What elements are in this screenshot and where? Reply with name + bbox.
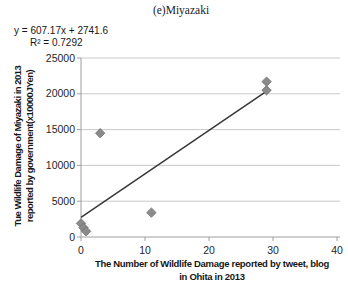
y-tick-label: 5000 <box>52 195 76 207</box>
x-axis-title-line1: The Number of Wildlife Damage reported b… <box>95 258 329 271</box>
y-tick-label: 15000 <box>46 123 75 135</box>
x-tick-label: 10 <box>139 244 151 256</box>
x-tick-label: 30 <box>267 244 279 256</box>
data-point-marker <box>147 208 156 217</box>
x-axis-title-line2: in Ohita in 2013 <box>95 271 329 284</box>
y-tick-label: 20000 <box>46 87 75 99</box>
trendline <box>81 92 266 218</box>
figure-panel-miyazaki: (e)Miyazaki y = 607.17x + 2741.6 R² = 0.… <box>0 0 348 284</box>
x-axis-title: The Number of Wildlife Damage reported b… <box>95 258 329 283</box>
x-tick-label: 40 <box>331 244 343 256</box>
y-tick-label: 25000 <box>46 52 75 64</box>
scatter-plot: 0500010000150002000025000010203040 <box>0 0 348 284</box>
y-tick-label: 10000 <box>46 159 75 171</box>
data-point-marker <box>262 77 271 86</box>
x-tick-label: 0 <box>78 244 84 256</box>
x-tick-label: 20 <box>203 244 215 256</box>
y-tick-label: 0 <box>69 231 75 243</box>
